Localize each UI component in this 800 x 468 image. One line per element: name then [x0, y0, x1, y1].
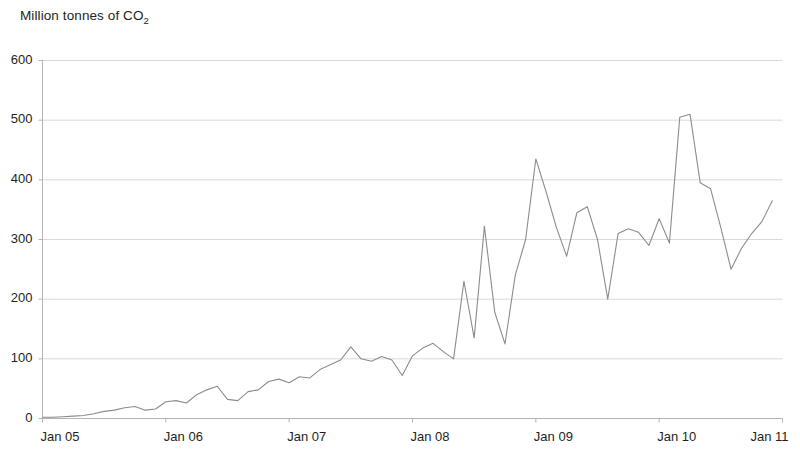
y-tick-label: 100 — [0, 350, 33, 365]
y-tick-label: 0 — [0, 410, 33, 425]
x-tick-label: Jan 11 — [750, 429, 788, 444]
x-tick-label: Jan 08 — [411, 429, 450, 444]
data-line-series-0 — [43, 114, 773, 417]
y-tick-label: 300 — [0, 231, 33, 246]
x-tick-label: Jan 06 — [164, 429, 203, 444]
y-tick-label: 600 — [0, 52, 33, 67]
line-chart-plot — [0, 0, 800, 468]
tick-marks-group — [39, 61, 783, 423]
data-series-group — [43, 114, 773, 417]
x-tick-label: Jan 09 — [534, 429, 573, 444]
chart-figure: Million tonnes of CO2 010020030040050060… — [0, 0, 800, 468]
x-tick-label: Jan 10 — [657, 429, 696, 444]
y-tick-label: 500 — [0, 111, 33, 126]
x-tick-label: Jan 05 — [41, 429, 80, 444]
y-tick-label: 400 — [0, 171, 33, 186]
y-tick-label: 200 — [0, 290, 33, 305]
x-tick-label: Jan 07 — [287, 429, 326, 444]
gridlines-group — [43, 61, 783, 359]
